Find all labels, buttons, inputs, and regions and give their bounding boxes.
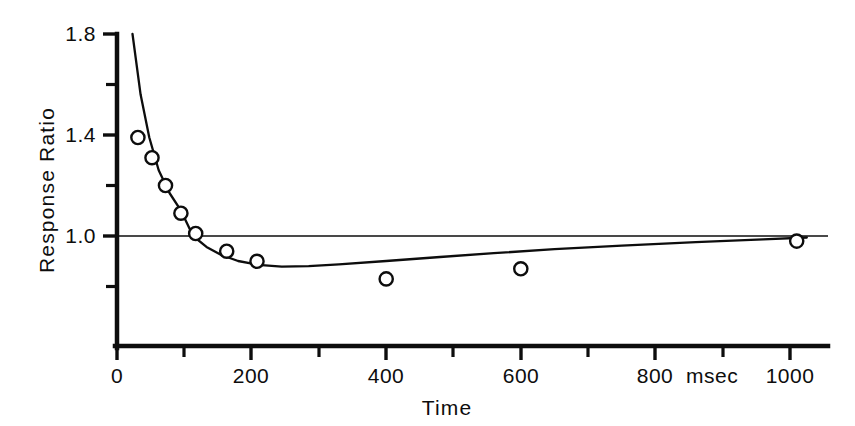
x-axis-title: Time xyxy=(422,396,473,419)
data-point xyxy=(131,131,144,144)
data-point xyxy=(380,272,393,285)
chart-plot-area: 1.8 1.4 1.0 0 200 400 600 800 msec 1000 … xyxy=(0,0,855,426)
x-axis-unit-label: msec xyxy=(686,364,738,387)
y-tick-label-1.8: 1.8 xyxy=(65,22,96,45)
y-axis-title: Response Ratio xyxy=(35,107,58,273)
data-point xyxy=(189,227,202,240)
data-point xyxy=(220,245,233,258)
y-tick-label-1.0: 1.0 xyxy=(65,224,96,247)
data-point xyxy=(145,151,158,164)
data-point xyxy=(159,179,172,192)
data-point xyxy=(174,207,187,220)
x-tick-label-400: 400 xyxy=(368,364,405,387)
x-tick-label-1000: 1000 xyxy=(766,364,815,387)
y-tick-label-1.4: 1.4 xyxy=(65,123,96,146)
data-point xyxy=(514,262,527,275)
x-tick-label-600: 600 xyxy=(503,364,540,387)
data-point xyxy=(790,235,803,248)
x-tick-label-0: 0 xyxy=(111,364,123,387)
x-tick-label-200: 200 xyxy=(233,364,270,387)
data-point xyxy=(250,255,263,268)
x-tick-label-800: 800 xyxy=(637,364,674,387)
fitted-curve xyxy=(133,34,807,267)
figure-container: 1.8 1.4 1.0 0 200 400 600 800 msec 1000 … xyxy=(0,0,855,426)
